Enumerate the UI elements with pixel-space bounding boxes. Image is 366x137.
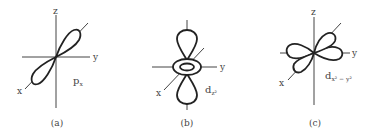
y-axis-label: y [351,48,358,58]
px-lobe-lower [32,57,56,84]
caption-a: (a) [51,118,63,128]
orbital-label: px [73,75,83,87]
orbital-label: dz² [205,84,218,96]
panel-a-px-orbital: z y x px (a) [17,6,99,128]
y-axis-label: y [219,62,226,72]
x-axis-label: x [17,86,22,96]
caption-c: (c) [309,118,321,128]
y-axis-label: y [92,52,99,62]
dz2-lobe-upper [177,30,197,60]
panel-b-dz2-orbital: y x dz² (b) [152,20,226,128]
x-axis-label: x [279,78,284,88]
x-axis-label: x [156,88,161,98]
z-axis-label: z [311,7,316,17]
orbital-label: dx² − y² [325,70,352,83]
dz2-torus-inner [180,64,194,71]
z-axis-label: z [53,6,58,16]
dz2-lobe-lower [177,74,197,104]
px-lobe-upper [56,30,80,57]
orbital-diagram: z y x px (a) y x dz² (b) z y x dx² − y² … [0,0,366,137]
panel-c-dx2y2-orbital: z y x dx² − y² (c) [279,7,358,128]
caption-b: (b) [181,118,194,128]
